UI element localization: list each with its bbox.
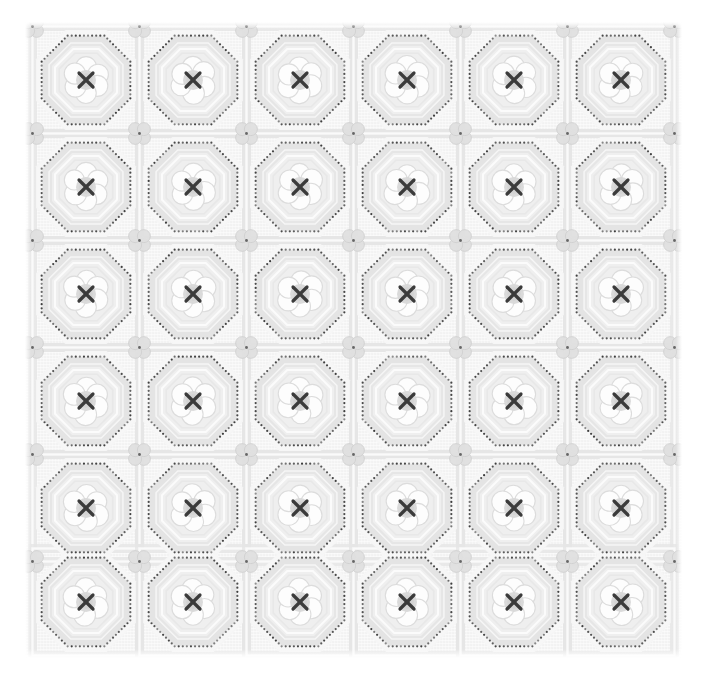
fabric-swatch xyxy=(25,22,682,658)
lace-pattern-svg xyxy=(25,22,682,658)
screenshot-canvas xyxy=(0,0,703,688)
